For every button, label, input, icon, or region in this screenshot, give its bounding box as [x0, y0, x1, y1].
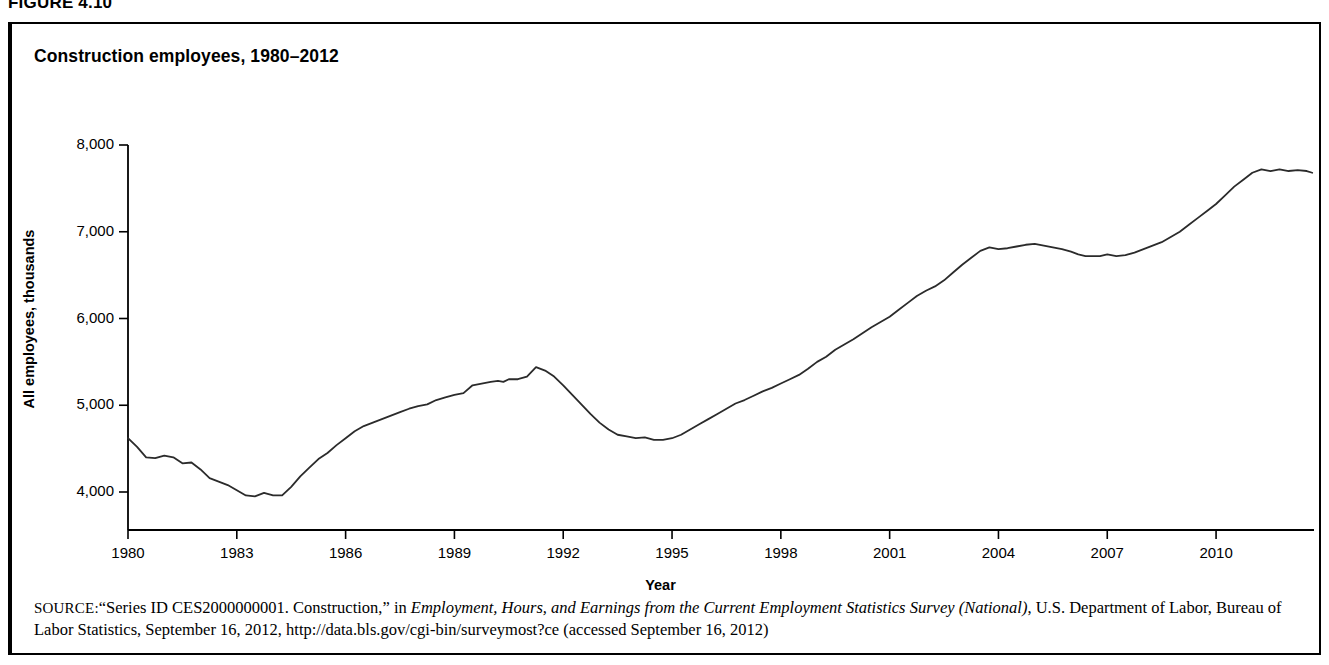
source-publication-title: Employment, Hours, and Earnings from the…: [411, 598, 1028, 617]
y-axis-title: All employees, thousands: [21, 154, 37, 484]
x-tick-label: 2007: [1067, 544, 1147, 561]
y-tick-label: 7,000: [40, 222, 114, 239]
x-axis-title: Year: [12, 577, 1325, 593]
y-tick-label: 6,000: [40, 309, 114, 326]
x-tick-label: 2001: [850, 544, 930, 561]
y-tick-label: 4,000: [40, 482, 114, 499]
x-tick-label: 1986: [306, 544, 386, 561]
source-text-before: “Series ID CES2000000001. Construction,”…: [99, 598, 411, 617]
x-tick-label: 1983: [197, 544, 277, 561]
x-tick-label: 1995: [632, 544, 712, 561]
figure-container: Construction employees, 1980–2012 4,0005…: [8, 22, 1321, 655]
y-tick-label: 8,000: [40, 135, 114, 152]
source-label: SOURCE:: [34, 600, 99, 616]
figure-number-label: FIGURE 4.10: [8, 0, 112, 13]
x-axis-title-text: Year: [645, 577, 676, 593]
source-note: SOURCE:“Series ID CES2000000001. Constru…: [34, 597, 1309, 641]
line-chart-svg: [12, 24, 1325, 594]
y-tick-label: 5,000: [40, 395, 114, 412]
x-tick-label: 2010: [1176, 544, 1256, 561]
chart-plot-area: 4,0005,0006,0007,0008,000 19801983198619…: [12, 24, 1325, 657]
x-tick-label: 2004: [958, 544, 1038, 561]
x-tick-label: 1980: [88, 544, 168, 561]
data-series-line: [128, 169, 1312, 496]
x-tick-label: 1989: [414, 544, 494, 561]
x-tick-label: 1992: [523, 544, 603, 561]
x-tick-label: 1998: [741, 544, 821, 561]
